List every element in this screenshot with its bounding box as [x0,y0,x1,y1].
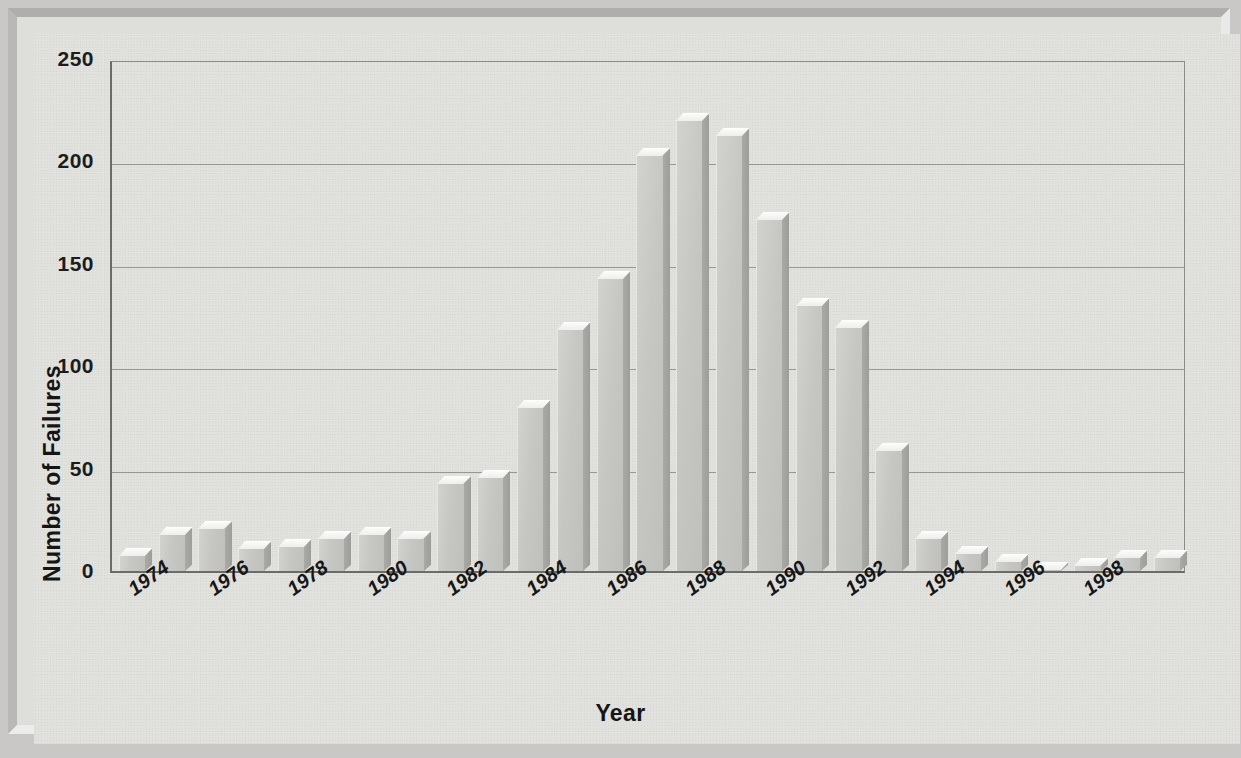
bar [1154,557,1180,571]
bar-side-face [543,401,550,571]
bar-front-face [1154,557,1181,571]
bar-front-face [358,534,385,571]
bar-front-face [835,327,862,571]
y-axis-tick-label: 200 [0,149,94,173]
bar-side-face [464,477,471,571]
bar-side-face [742,128,749,571]
bar [198,528,224,571]
bar [796,305,822,571]
plot-area [110,61,1185,573]
bar-front-face [676,120,703,571]
bar [716,135,742,571]
bar-side-face [503,470,510,571]
bar-side-face [702,114,709,571]
bar [597,278,623,571]
y-axis-tick-label: 0 [0,559,94,583]
bar-front-face [557,329,584,571]
bar-front-face [437,483,464,571]
bar-side-face [822,298,829,571]
bar-front-face [716,135,743,571]
bar-front-face [636,155,663,571]
bar-side-face [623,272,630,571]
bar [358,534,384,571]
bar-front-face [198,528,225,571]
bar [756,219,782,571]
chart-page: Number of Failures 250200150100500 19741… [0,0,1241,758]
bar [875,450,901,571]
bar-front-face [915,538,942,571]
bar [278,546,304,571]
bar-front-face [796,305,823,571]
y-axis-title-wrapper: Number of Failures [30,160,70,460]
y-axis-tick-label: 250 [0,47,94,71]
bar-side-face [583,323,590,571]
bar-side-face [902,444,909,571]
y-axis-tick-label: 150 [0,252,94,276]
y-axis-tick-label: 50 [0,457,94,481]
bar-front-face [597,278,624,571]
bar-front-face [477,477,504,571]
bar [676,120,702,571]
bar [557,329,583,571]
bar-front-face [756,219,783,571]
bar [517,407,543,571]
bar-side-face [424,532,431,571]
bar [437,483,463,571]
bar [636,155,662,571]
x-axis-title: Year [0,700,1241,727]
bar-side-face [782,212,789,571]
y-axis-tick-label: 100 [0,354,94,378]
bar-side-face [862,321,869,571]
bar-side-face [663,149,670,571]
bar [477,477,503,571]
bar-front-face [875,450,902,571]
bar-front-face [517,407,544,571]
bar [835,327,861,571]
bar [915,538,941,571]
